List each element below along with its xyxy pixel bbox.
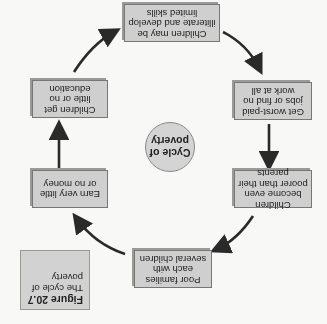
step-box-little-education: Children get little or no education <box>32 80 108 118</box>
step-text: Poor families each with several children <box>138 253 208 285</box>
step-box-poor-families: Poor families each with several children <box>134 250 212 288</box>
step-box-even-poorer: Children become even poorer than their p… <box>234 170 312 208</box>
arrow-1 <box>77 219 125 254</box>
step-text: Children become even poorer than their p… <box>238 168 308 210</box>
figure-caption-box: Figure 20.7 The cycle of poverty <box>20 250 90 310</box>
center-label-line1: Cycle of <box>150 147 191 159</box>
figure-caption: The cycle of poverty <box>27 272 83 294</box>
step-text: Children may be illiterate and develop l… <box>128 7 216 39</box>
step-box-illiterate: Children may be illiterate and develop l… <box>124 4 220 42</box>
step-box-earn-little: Earn very little or no money <box>32 170 108 208</box>
step-box-worst-paid-jobs: Get worst-paid jobs or find no work at a… <box>234 82 312 120</box>
arrow-6 <box>217 216 253 249</box>
figure-number: Figure 20.7 <box>27 294 83 305</box>
arrow-4 <box>223 32 259 68</box>
rotated-diagram: Children may be illiterate and develop l… <box>0 0 327 324</box>
arrow-3 <box>74 32 114 72</box>
step-text: Get worst-paid jobs or find no work at a… <box>238 85 308 117</box>
step-text: Children get little or no education <box>36 83 104 115</box>
center-label-line2: poverty <box>150 135 191 147</box>
step-text: Earn very little or no money <box>36 179 104 200</box>
diagram-stage: Children may be illiterate and develop l… <box>0 0 327 324</box>
center-circle: Cycle of poverty <box>145 122 195 172</box>
